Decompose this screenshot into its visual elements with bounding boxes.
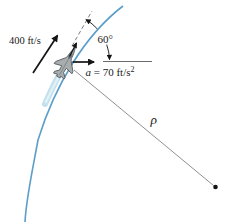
angle-label: 60°	[98, 33, 113, 45]
radius-label: ρ	[150, 112, 158, 127]
velocity-label: 400 ft/s	[9, 35, 41, 46]
angle-arc-upper	[86, 20, 97, 29]
acceleration-superscript: 2	[131, 65, 135, 74]
angle-arc-lower	[107, 45, 110, 60]
physics-diagram-canvas: ρ 60° 400 ft/s a = 70 ft/s2	[0, 0, 237, 224]
acceleration-label: a = 70 ft/s2	[86, 65, 135, 78]
radius-line	[74, 70, 214, 186]
figure-container: ρ 60° 400 ft/s a = 70 ft/s2	[0, 0, 237, 224]
curvature-center-dot	[213, 185, 218, 190]
acceleration-value: = 70 ft/s	[91, 66, 131, 78]
